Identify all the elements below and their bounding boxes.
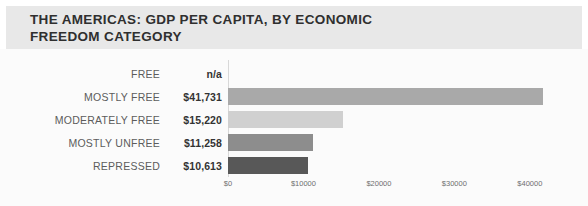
bar-mostly-unfree <box>228 134 313 151</box>
bar-repressed <box>228 157 308 174</box>
x-tick-label: $30000 <box>442 179 467 188</box>
table-row: FREE n/a <box>0 62 588 85</box>
x-tick-label: $20000 <box>366 179 391 188</box>
bar-cell <box>228 131 588 154</box>
category-label: MOSTLY FREE <box>0 91 160 103</box>
bar-cell <box>228 62 588 85</box>
table-row: MOSTLY FREE $41,731 <box>0 85 588 108</box>
x-tick-label: $40000 <box>517 179 542 188</box>
value-label: $11,258 <box>160 137 228 149</box>
table-row: REPRESSED $10,613 <box>0 154 588 177</box>
value-label: $15,220 <box>160 114 228 126</box>
table-row: MOSTLY UNFREE $11,258 <box>0 131 588 154</box>
bar-cell <box>228 154 588 177</box>
value-label: $41,731 <box>160 91 228 103</box>
x-tick-label: $10000 <box>291 179 316 188</box>
chart-figure: THE AMERICAS: GDP PER CAPITA, BY ECONOMI… <box>0 0 588 206</box>
value-label: n/a <box>160 68 228 80</box>
bar-rows: FREE n/a MOSTLY FREE $41,731 MODERATELY … <box>0 62 588 177</box>
category-label: FREE <box>0 68 160 80</box>
table-row: MODERATELY FREE $15,220 <box>0 108 588 131</box>
category-label: MOSTLY UNFREE <box>0 137 160 149</box>
bar-moderately-free <box>228 111 343 128</box>
category-label: REPRESSED <box>0 160 160 172</box>
chart-title: THE AMERICAS: GDP PER CAPITA, BY ECONOMI… <box>30 12 530 45</box>
bar-mostly-free <box>228 88 543 105</box>
bar-cell <box>228 108 588 131</box>
bar-cell <box>228 85 588 108</box>
value-label: $10,613 <box>160 160 228 172</box>
category-label: MODERATELY FREE <box>0 114 160 126</box>
x-axis-ticks: $0 $10000 $20000 $30000 $40000 <box>228 179 560 193</box>
x-tick-label: $0 <box>224 179 232 188</box>
